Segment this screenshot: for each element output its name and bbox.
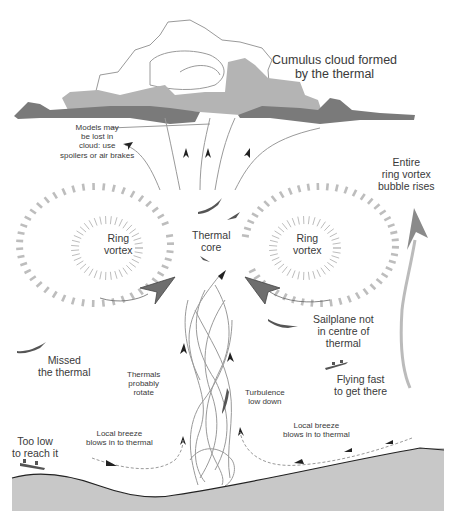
vortex-left-outer-dash <box>152 208 158 212</box>
vortex-left-inner-dash <box>115 217 117 225</box>
vortex-left-outer-dash <box>139 196 143 202</box>
vortex-left-outer-dash <box>165 258 172 260</box>
vortex-left-inner-dash <box>100 217 102 225</box>
vortex-left-inner-dash <box>123 268 128 275</box>
vortex-right-inner-dash <box>282 267 287 273</box>
vortex-right-outer-dash <box>364 289 368 295</box>
thermal-diagram: Cumulus cloud formed by the thermal Mode… <box>0 0 452 521</box>
vortex-left-outer-dash <box>18 232 25 233</box>
vortex-right-inner-dash <box>282 223 287 229</box>
big-arrow-right <box>245 277 280 304</box>
vortex-left-outer-dash <box>131 191 134 197</box>
updraft-arrowheads <box>123 142 250 158</box>
vortex-right-inner-dash <box>308 216 309 224</box>
ring-vortex-right-line: vortex <box>293 244 322 256</box>
vortex-left-outer-dash <box>103 183 104 190</box>
vortex-left-outer-dash <box>83 184 84 191</box>
vortex-right-inner-dash <box>332 256 340 259</box>
updraft-lines <box>110 118 320 190</box>
thermal-core-line: Thermal <box>192 229 231 241</box>
vortex-right-outer-dash <box>244 228 251 230</box>
models-lost-line: be lost in <box>60 132 134 141</box>
vortex-left-inner-dash <box>74 257 81 260</box>
vortex-right-outer-dash <box>389 261 396 263</box>
breeze-right-label: Local breeze blows in to thermal <box>283 421 350 439</box>
vortex-right-inner-dash <box>275 261 282 265</box>
vortex-right-outer-dash <box>330 299 331 306</box>
vortex-left-inner-dash <box>110 216 111 224</box>
vortex-right-outer-dash <box>361 194 365 200</box>
vortex-left-outer-dash <box>113 185 115 192</box>
vortex-left-inner-dash <box>134 256 142 259</box>
vortex-left-outer-dash <box>152 278 158 282</box>
cloud-label-line: by the thermal <box>272 67 397 81</box>
vortex-left-inner-dash <box>110 272 111 280</box>
vortex-left-inner-dash <box>72 240 80 242</box>
vortex-right-inner-dash <box>270 254 278 256</box>
turbulence-label: Turbulence low down <box>245 388 285 406</box>
vortex-left-outer-dash <box>162 222 169 225</box>
vortex-right-inner-dash <box>292 218 295 225</box>
thermal-column <box>185 275 234 486</box>
vortex-right-outer-dash <box>392 240 399 241</box>
vortex-left-inner-dash <box>119 219 122 226</box>
vortex-left-outer-dash <box>21 224 28 226</box>
vortex-right-inner-dash <box>321 268 326 275</box>
vortex-right-outer-dash <box>390 232 397 233</box>
thermals-rotate-line: rotate <box>127 388 160 397</box>
vortex-left-outer-dash <box>83 299 84 306</box>
vortex-right-inner-dash <box>275 231 282 235</box>
ground <box>12 448 444 511</box>
vortex-right-outer-dash <box>380 210 386 214</box>
vortex-right-outer-dash <box>258 207 264 211</box>
vortex-left-outer-dash <box>30 276 36 280</box>
ring-vortex-right-label: Ring vortex <box>293 232 322 256</box>
vortex-left-outer-dash <box>130 293 133 299</box>
flying-fast-line: Flying fast <box>334 373 387 385</box>
vortex-left-inner-dash <box>71 250 79 251</box>
vortex-left-outer-dash <box>158 215 164 218</box>
vortex-right-inner-dash <box>313 271 315 279</box>
vortex-right-outer-dash <box>339 298 341 305</box>
vortex-right-outer-dash <box>382 273 388 277</box>
models-lost-line: cloud: use <box>60 141 134 150</box>
vortex-left-inner-dash <box>80 264 86 269</box>
vortex-right-inner-dash <box>278 264 284 269</box>
turbulence-line: Turbulence <box>245 388 285 397</box>
vortex-right-outer-dash <box>345 187 347 194</box>
vortex-left-outer-dash <box>44 287 48 292</box>
vortex-right-outer-dash <box>370 284 375 289</box>
vortex-right-outer-dash <box>368 199 373 204</box>
rising-bubble-arrow-shaft <box>401 240 415 388</box>
vortex-right-inner-dash <box>287 269 291 276</box>
vortex-left-inner-dash <box>72 254 80 256</box>
vortex-left-inner-dash <box>126 225 132 231</box>
vortex-right-outer-dash <box>376 279 381 283</box>
vortex-left-inner-dash <box>77 261 84 265</box>
vortex-left-outer-dash <box>158 272 164 275</box>
vortex-right-inner-dash <box>272 235 279 238</box>
vortex-right-outer-dash <box>280 192 284 198</box>
vortex-right-inner-dash <box>272 257 279 260</box>
vortex-left-inner-dash <box>132 259 139 263</box>
vortex-left-inner-dash <box>84 223 89 229</box>
vortex-left-inner-dash <box>89 269 93 276</box>
missed-thermal-line: the thermal <box>38 366 91 378</box>
ring-vortex-left-label: Ring vortex <box>104 232 133 256</box>
vortex-right-inner-dash <box>313 217 315 225</box>
vortex-right-inner-dash <box>270 240 278 242</box>
missed-thermal-label: Missed the thermal <box>38 354 91 378</box>
models-lost-line: spoilers or air brakes <box>60 151 134 160</box>
models-lost-line: Models may <box>60 123 134 132</box>
vortex-left-inner-dash <box>123 222 128 229</box>
vortex-left-outer-dash <box>37 203 42 208</box>
vortex-right-outer-dash <box>289 188 292 194</box>
vortex-right-inner-dash <box>287 220 291 227</box>
vortex-left-inner-dash <box>119 270 122 277</box>
vortex-left-outer-dash <box>139 289 143 295</box>
vortex-left-outer-dash <box>103 300 104 307</box>
vortex-left-outer-dash <box>53 192 57 198</box>
vortex-right-inner-dash <box>327 262 333 267</box>
vortex-left-outer-dash <box>166 235 173 236</box>
vortex-right-outer-dash <box>242 235 249 236</box>
